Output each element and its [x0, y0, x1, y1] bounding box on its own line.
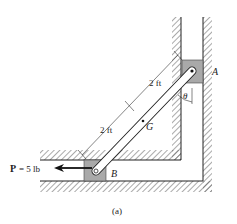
force-symbol-p: P — [10, 163, 16, 174]
outer-vertical-wall-hatch — [203, 17, 212, 192]
channel-walls — [40, 17, 212, 192]
dimension-label-upper: 2 ft — [149, 78, 162, 88]
label-b: B — [111, 168, 117, 179]
lower-horizontal-wall-hatch — [40, 181, 212, 192]
label-a: A — [211, 66, 219, 77]
label-theta: θ — [183, 91, 188, 101]
center-of-gravity-dot — [142, 120, 145, 123]
inner-wall-line — [40, 17, 181, 160]
dimension-lines — [78, 51, 182, 159]
force-value-label: = 5 lb — [19, 164, 41, 174]
dimension-label-lower: 2 ft — [100, 125, 113, 135]
mechanics-diagram: A B G θ 2 ft 2 ft P = 5 lb (a) — [0, 0, 237, 224]
pin-a — [190, 69, 193, 72]
pin-b — [94, 169, 98, 173]
figure-caption: (a) — [112, 206, 122, 216]
label-g: G — [146, 121, 153, 132]
